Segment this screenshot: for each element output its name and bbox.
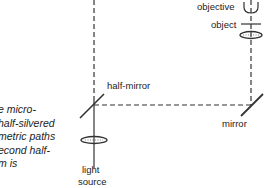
objective-label: objective <box>197 1 235 12</box>
light-label: light <box>82 164 99 175</box>
caption-line: metric paths <box>0 130 55 144</box>
caption-line: econd half- <box>0 144 55 158</box>
mirror-label: mirror <box>222 118 247 129</box>
caption-line: m is <box>0 157 55 171</box>
caption-line: half-silvered <box>0 117 55 131</box>
caption-line: e micro- <box>0 103 55 117</box>
half-mirror-label: half-mirror <box>107 80 150 91</box>
object-label: object <box>211 19 236 30</box>
mirror-shape <box>241 94 263 116</box>
source-label: source <box>78 176 107 187</box>
caption-text: e micro- half-silvered metric paths econ… <box>0 103 55 171</box>
half-mirror-shape <box>80 94 104 118</box>
